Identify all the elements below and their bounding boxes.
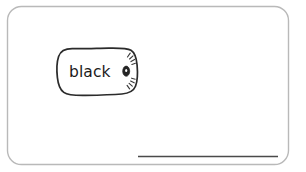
sketch-canvas: black shine-dot-icon signature-l (0, 0, 306, 172)
icon-core-highlight (125, 69, 127, 72)
card-frame (8, 7, 289, 165)
sketch-svg: black (0, 0, 306, 172)
pill-label: black (69, 63, 111, 81)
pill-button[interactable]: black (57, 48, 138, 95)
